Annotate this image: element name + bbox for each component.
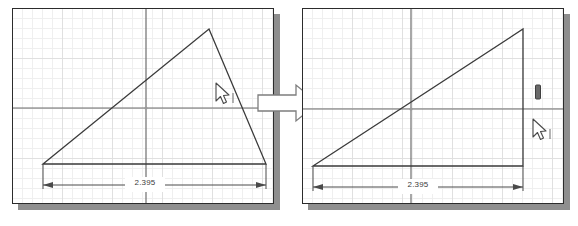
right-axes [303, 9, 563, 203]
mouse-pointer [212, 81, 238, 113]
vertical-constraint-icon[interactable] [531, 83, 545, 103]
right-dimension-label: 2.395 [398, 180, 438, 189]
right-geometry [303, 9, 563, 203]
right-profile-triangle [313, 29, 523, 166]
mouse-pointer [529, 117, 555, 149]
left-canvas[interactable]: 2.395 [12, 8, 274, 204]
sketch-comparison-figure: 2.395 [0, 0, 578, 226]
left-sketch-panel[interactable]: 2.395 [12, 8, 274, 204]
right-sketch-panel[interactable]: 2.395 [302, 8, 564, 204]
left-dimension-label: 2.395 [125, 178, 165, 187]
right-canvas[interactable]: 2.395 [302, 8, 564, 204]
